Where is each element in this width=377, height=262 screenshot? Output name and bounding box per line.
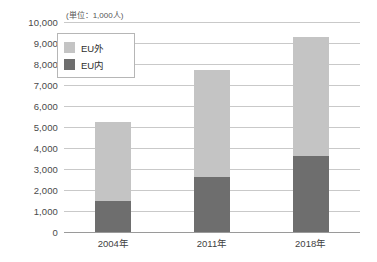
- unit-annotation: (単位：1,000人): [66, 9, 123, 20]
- bar-group[interactable]: [293, 37, 329, 232]
- y-axis-tick-label: 1,000: [0, 206, 58, 217]
- x-axis-tick-label: 2004年: [78, 236, 148, 250]
- y-axis-tick-label: 9,000: [0, 38, 58, 49]
- bar-group[interactable]: [194, 70, 230, 232]
- y-axis-tick-label: 7,000: [0, 80, 58, 91]
- y-axis-tick-label: 10,000: [0, 17, 58, 28]
- legend-item-outer: EU外: [64, 39, 128, 56]
- legend-label-outer: EU外: [81, 41, 104, 55]
- chart-legend: EU外 EU内: [57, 33, 135, 78]
- gridline: [64, 22, 360, 23]
- y-axis-tick-labels: 10,0009,0008,0007,0006,0005,0004,0003,00…: [0, 22, 58, 232]
- y-axis-tick-label: 8,000: [0, 59, 58, 70]
- legend-label-inner: EU内: [81, 58, 104, 72]
- bar-segment-inner[interactable]: [95, 201, 131, 233]
- y-axis-tick-label: 3,000: [0, 164, 58, 175]
- y-axis-tick-label: 6,000: [0, 101, 58, 112]
- bar-segment-outer[interactable]: [194, 70, 230, 177]
- x-axis-tick-labels: 2004年2011年2018年: [64, 236, 360, 254]
- x-axis-tick-label: 2018年: [276, 236, 346, 250]
- y-axis-tick-label: 4,000: [0, 143, 58, 154]
- y-axis-tick-label: 0: [0, 227, 58, 238]
- bar-group[interactable]: [95, 122, 131, 232]
- legend-item-inner: EU内: [64, 56, 128, 73]
- axis-baseline: [64, 232, 360, 233]
- y-axis-tick-label: 2,000: [0, 185, 58, 196]
- x-axis-tick-label: 2011年: [177, 236, 247, 250]
- stacked-bar-chart: (単位：1,000人) 10,0009,0008,0007,0006,0005,…: [0, 0, 377, 262]
- bar-segment-outer[interactable]: [95, 122, 131, 201]
- legend-swatch-inner-icon: [64, 59, 75, 70]
- bar-segment-inner[interactable]: [194, 177, 230, 232]
- legend-swatch-outer-icon: [64, 42, 75, 53]
- bar-segment-inner[interactable]: [293, 156, 329, 232]
- y-axis-tick-label: 5,000: [0, 122, 58, 133]
- bar-segment-outer[interactable]: [293, 37, 329, 157]
